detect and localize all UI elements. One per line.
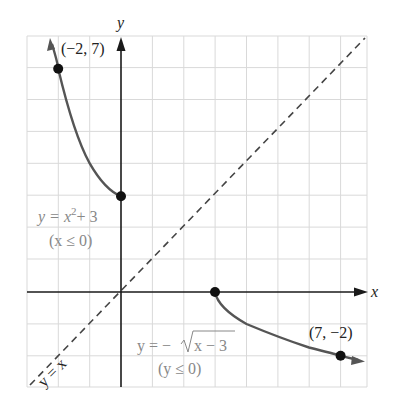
g-eq-prefix: y = − [137, 337, 171, 355]
g-domain: (y ≤ 0) [158, 360, 201, 378]
x-axis [27, 288, 368, 297]
label-point-7-neg2: (7, −2) [309, 324, 353, 342]
identity-label: y = x [34, 355, 70, 391]
sqrt-arrow-icon [351, 356, 365, 365]
y-axis [117, 37, 126, 387]
svg-text:y = x2+ 3: y = x2+ 3 [36, 205, 98, 226]
f-eq-main: y = x [36, 208, 71, 226]
label-point-neg2-7: (−2, 7) [61, 40, 105, 58]
point-7-neg2 [336, 351, 346, 361]
inverse-functions-graph: x y (−2, 7) (7, −2) y = x2+ 3 (x ≤ 0) y … [0, 0, 400, 411]
x-axis-label: x [370, 283, 378, 300]
y-axis-arrow-icon [117, 37, 126, 51]
parabola-arrow-icon [47, 38, 55, 51]
g-eq-radicand: x − 3 [194, 337, 227, 354]
point-0-3 [116, 191, 126, 201]
sqrt-equation: y = − x − 3 (y ≤ 0) [137, 331, 235, 378]
y-axis-label: y [115, 14, 125, 32]
f-domain: (x ≤ 0) [49, 232, 92, 250]
point-neg2-7 [53, 64, 63, 74]
f-eq-tail: + 3 [77, 208, 98, 225]
x-axis-arrow-icon [354, 288, 368, 297]
point-3-0 [210, 287, 220, 297]
